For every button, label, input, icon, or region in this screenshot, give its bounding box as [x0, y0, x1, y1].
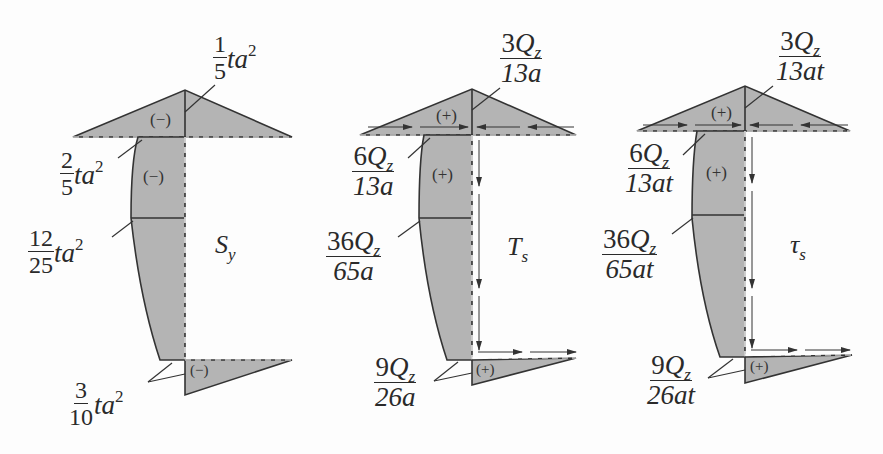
sy-sign-top: (−)	[150, 110, 171, 130]
ts-label-apex: 3Qz13a	[500, 30, 543, 87]
tau-sign-top: (+)	[711, 103, 732, 123]
tau-diagram	[637, 86, 852, 383]
ts-label-web-mid: 36Qz65a	[326, 228, 381, 285]
tau-sign-bottom: (+)	[750, 358, 768, 375]
ts-title: Ts	[507, 232, 528, 262]
ts-sign-top: (+)	[436, 106, 457, 126]
ts-diagram	[360, 88, 576, 385]
diagram-canvas	[0, 0, 883, 454]
tau-label-apex: 3Qz13at	[775, 28, 825, 85]
tau-title: τs	[790, 230, 806, 260]
ts-label-web-top: 6Qz13a	[352, 143, 395, 200]
tau-label-web-top: 6Qz13at	[624, 140, 674, 197]
sy-diagram	[73, 85, 292, 395]
tau-sign-web: (+)	[706, 163, 727, 183]
sy-sign-web: (−)	[143, 167, 164, 187]
tau-label-bottom: 9Qz26at	[646, 352, 696, 409]
sy-label-web-top: 25ta2	[60, 148, 104, 199]
sy-top-flange-triangle	[73, 90, 292, 137]
sy-title: Sy	[215, 230, 236, 260]
tau-label-web-mid: 36Qz65at	[602, 226, 657, 283]
sy-label-bottom: 310ta2	[68, 378, 124, 429]
sy-label-web-mid: 1225ta2	[28, 226, 84, 277]
sy-label-apex: 15ta2	[213, 32, 257, 83]
sy-sign-bottom: (−)	[190, 362, 208, 379]
ts-sign-bottom: (+)	[476, 361, 494, 378]
ts-sign-web: (+)	[432, 165, 453, 185]
ts-label-bottom: 9Qz26a	[374, 354, 417, 411]
